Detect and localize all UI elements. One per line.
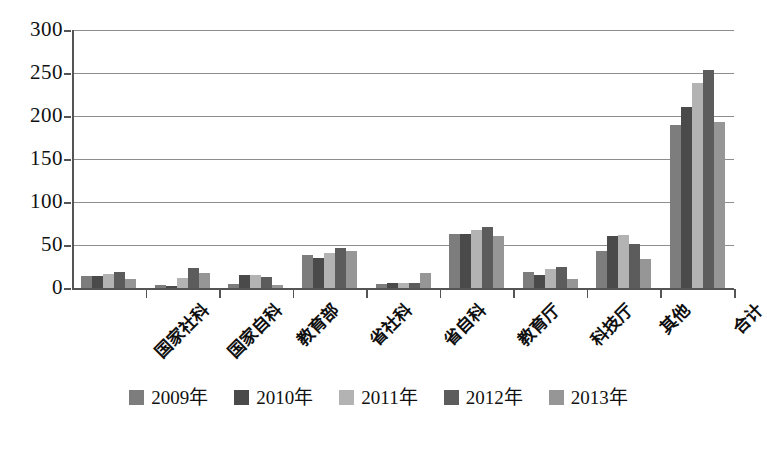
x-axis-label: 教育部 (293, 300, 342, 349)
bar (471, 230, 482, 288)
x-tick-mark (219, 289, 221, 298)
x-tick-mark (513, 289, 515, 298)
bar (387, 283, 398, 288)
bar (376, 284, 387, 288)
chart-legend: 2009年2010年2011年2012年2013年 (0, 388, 757, 407)
bar (250, 275, 261, 288)
x-axis-label: 其他 (656, 300, 693, 337)
legend-item[interactable]: 2010年 (234, 388, 313, 407)
bar (261, 277, 272, 288)
legend-swatch (129, 390, 144, 405)
x-tick-mark (146, 289, 148, 298)
bar (670, 125, 681, 288)
y-tick-label: 250 (30, 62, 63, 83)
x-axis-label: 科技厅 (587, 300, 636, 349)
bar (81, 276, 92, 288)
bar (523, 272, 534, 288)
y-tick-label: 50 (41, 234, 63, 255)
bar (556, 267, 567, 289)
bar (155, 285, 166, 288)
y-tick-mark (64, 116, 71, 118)
bar (125, 279, 136, 288)
bar (545, 269, 556, 288)
bar (409, 283, 420, 288)
x-axis-label: 合计 (729, 300, 766, 337)
x-tick-mark (587, 289, 589, 298)
bar (460, 234, 471, 288)
bar (714, 122, 725, 288)
x-axis-label: 国家自科 (224, 300, 286, 362)
y-tick-label: 300 (30, 19, 63, 40)
bar (703, 70, 714, 288)
bar-group (155, 30, 210, 288)
bar-group (81, 30, 136, 288)
bar (92, 276, 103, 288)
bar (302, 255, 313, 288)
x-tick-mark (293, 289, 295, 298)
x-tick-mark (366, 289, 368, 298)
bar (534, 275, 545, 288)
y-axis-line (72, 30, 74, 289)
legend-swatch (549, 390, 564, 405)
y-tick-label: 200 (30, 105, 63, 126)
legend-label: 2012年 (466, 388, 523, 407)
y-tick-mark (64, 202, 71, 204)
y-tick-label: 150 (30, 148, 63, 169)
legend-item[interactable]: 2011年 (339, 388, 417, 407)
bar (103, 274, 114, 288)
bar (239, 275, 250, 288)
x-axis-label: 教育厅 (513, 300, 562, 349)
legend-item[interactable]: 2009年 (129, 388, 208, 407)
y-tick-mark (64, 73, 71, 75)
legend-item[interactable]: 2012年 (444, 388, 523, 407)
x-tick-mark (734, 289, 736, 298)
bar (346, 251, 357, 288)
legend-label: 2010年 (256, 388, 313, 407)
x-tick-mark (440, 289, 442, 298)
bar (629, 244, 640, 288)
legend-swatch (339, 390, 354, 405)
y-tick-label: 0 (52, 277, 63, 298)
bar-group (302, 30, 357, 288)
bar (596, 251, 607, 288)
legend-label: 2013年 (571, 388, 628, 407)
bar (692, 83, 703, 288)
bar-group (523, 30, 578, 288)
x-axis-label: 省社科 (366, 300, 415, 349)
y-tick-mark (64, 30, 71, 32)
bar (272, 285, 283, 288)
legend-swatch (234, 390, 249, 405)
bar (681, 107, 692, 288)
bar-group (449, 30, 504, 288)
legend-item[interactable]: 2013年 (549, 388, 628, 407)
y-tick-mark (64, 288, 71, 290)
bar (313, 258, 324, 288)
bar (607, 236, 618, 288)
legend-label: 2011年 (361, 388, 417, 407)
y-tick-mark (64, 245, 71, 247)
bar (449, 234, 460, 288)
bar (166, 286, 177, 288)
bar-group (596, 30, 651, 288)
x-tick-mark (660, 289, 662, 298)
x-axis-label: 省自科 (440, 300, 489, 349)
bar-group (228, 30, 283, 288)
bar-group (376, 30, 431, 288)
bar (493, 236, 504, 288)
bar (228, 284, 239, 288)
bar (114, 272, 125, 288)
bar-group (670, 30, 725, 288)
bar (640, 259, 651, 288)
y-tick-label: 100 (30, 191, 63, 212)
x-axis-line (72, 288, 734, 290)
bar (567, 279, 578, 288)
bar (188, 268, 199, 288)
x-axis-label: 国家社科 (151, 300, 213, 362)
legend-label: 2009年 (151, 388, 208, 407)
legend-swatch (444, 390, 459, 405)
y-tick-mark (64, 159, 71, 161)
bar (398, 283, 409, 288)
bar (482, 227, 493, 288)
bar (199, 273, 210, 288)
